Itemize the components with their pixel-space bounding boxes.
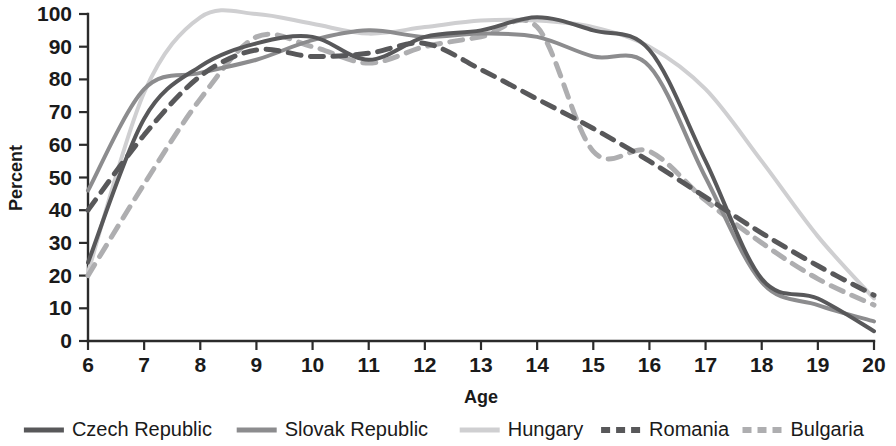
x-tick-label: 8	[194, 353, 206, 376]
series-line-romania	[88, 43, 874, 295]
y-tick-label: 0	[60, 329, 72, 352]
x-tick-label: 14	[525, 353, 549, 376]
x-tick-label: 6	[82, 353, 94, 376]
x-tick-label: 11	[358, 353, 381, 376]
x-tick-label: 18	[750, 353, 774, 376]
x-tick-label: 17	[694, 353, 717, 376]
y-tick-label: 40	[49, 198, 72, 221]
y-tick-label: 100	[37, 2, 72, 25]
y-axis-tick-labels: 0102030405060708090100	[37, 2, 72, 352]
y-tick-label: 50	[49, 166, 72, 189]
y-tick-label: 80	[49, 67, 72, 90]
legend-label-bulgaria: Bulgaria	[791, 418, 865, 440]
series-line-czech-republic	[88, 17, 874, 331]
y-tick-label: 20	[49, 264, 72, 287]
legend-label-czech-republic: Czech Republic	[72, 418, 212, 440]
legend-label-romania: Romania	[649, 418, 730, 440]
x-tick-label: 20	[862, 353, 885, 376]
y-axis-title: Percent	[6, 145, 26, 211]
chart-legend: Czech RepublicSlovak RepublicHungaryRoma…	[24, 418, 865, 440]
data-series-group	[88, 10, 874, 331]
axis-tick-marks	[79, 14, 874, 350]
legend-label-slovak-republic: Slovak Republic	[285, 418, 428, 440]
y-tick-label: 60	[49, 133, 72, 156]
x-tick-label: 12	[413, 353, 436, 376]
line-chart: 0102030405060708090100 67891011121314151…	[0, 0, 896, 446]
series-line-hungary	[88, 10, 874, 298]
x-tick-label: 15	[582, 353, 606, 376]
x-axis-title: Age	[464, 387, 498, 407]
x-tick-label: 19	[806, 353, 829, 376]
y-tick-label: 30	[49, 231, 72, 254]
x-tick-label: 7	[138, 353, 150, 376]
y-tick-label: 10	[49, 296, 72, 319]
y-tick-label: 90	[49, 35, 72, 58]
legend-label-hungary: Hungary	[508, 418, 584, 440]
y-tick-label: 70	[49, 100, 72, 123]
x-axis-tick-labels: 67891011121314151617181920	[82, 353, 886, 376]
x-tick-label: 13	[469, 353, 492, 376]
chart-canvas: 0102030405060708090100 67891011121314151…	[0, 0, 896, 446]
x-tick-label: 16	[638, 353, 661, 376]
x-tick-label: 9	[251, 353, 263, 376]
x-tick-label: 10	[301, 353, 324, 376]
